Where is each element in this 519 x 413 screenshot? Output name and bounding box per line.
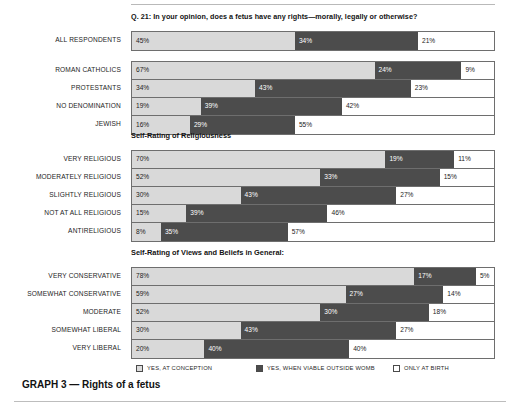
- section-header-views: Self-Rating of Views and Beliefs in Gene…: [131, 248, 284, 257]
- bar-row: 34% 43% 23%: [132, 80, 494, 98]
- bar-group-denomination: 67% 24% 9% 34% 43% 23% 19%: [131, 61, 495, 135]
- segment-at-conception: 67%: [132, 62, 375, 79]
- segment-only-at-birth: 5%: [476, 268, 494, 285]
- segment-value: 43%: [241, 327, 258, 334]
- segment-value: 27%: [396, 192, 413, 199]
- segment-value: 34%: [132, 85, 149, 92]
- segment-only-at-birth: 15%: [440, 169, 494, 186]
- category-label: VERY RELIGIOUS: [0, 150, 126, 168]
- segment-only-at-birth: 42%: [342, 98, 494, 115]
- segment-value: 67%: [132, 67, 149, 74]
- segment-value: 55%: [295, 122, 312, 129]
- segment-at-conception: 78%: [132, 268, 414, 285]
- bar-group-religiousness: 70% 19% 11% 52% 33% 15% 30%: [131, 150, 495, 242]
- segment-when-viable: 43%: [255, 80, 411, 97]
- bar-row: 67% 24% 9%: [132, 62, 494, 80]
- segment-value: 24%: [375, 67, 392, 74]
- segment-value: 70%: [132, 156, 149, 163]
- legend-item-only-at-birth: ONLY AT BIRTH: [393, 361, 449, 375]
- segment-value: 15%: [132, 210, 149, 217]
- segment-only-at-birth: 46%: [327, 205, 494, 222]
- bar-row: 59% 27% 14%: [132, 286, 494, 304]
- bar-row: 19% 39% 42%: [132, 98, 494, 116]
- segment-when-viable: 43%: [241, 187, 397, 204]
- segment-when-viable: 43%: [241, 322, 397, 339]
- segment-value: 30%: [132, 192, 149, 199]
- bar-group-views: 78% 17% 5% 59% 27% 14% 52%: [131, 267, 495, 359]
- category-label: SLIGHTLY RELIGIOUS: [0, 186, 126, 204]
- legend-item-at-conception: YES, AT CONCEPTION: [136, 361, 212, 375]
- legend-label: YES, AT CONCEPTION: [147, 365, 212, 371]
- segment-only-at-birth: 57%: [288, 223, 494, 241]
- legend-item-when-viable: YES, WHEN VIABLE OUTSIDE WOMB: [256, 361, 375, 375]
- segment-value: 52%: [132, 174, 149, 181]
- bar-row: 15% 39% 46%: [132, 205, 494, 223]
- segment-only-at-birth: 21%: [418, 32, 494, 50]
- segment-only-at-birth: 11%: [454, 151, 494, 168]
- category-labels-group-denomination: ROMAN CATHOLICS PROTESTANTS NO DENOMINAT…: [0, 61, 126, 133]
- category-label: NO DENOMINATION: [0, 97, 126, 115]
- segment-at-conception: 30%: [132, 187, 241, 204]
- legend-label: ONLY AT BIRTH: [404, 365, 449, 371]
- segment-value: 16%: [132, 122, 149, 129]
- bar-row: 45% 34% 21%: [132, 32, 494, 50]
- category-label: MODERATE: [0, 303, 126, 321]
- category-labels-group-1: ALL RESPONDENTS: [0, 31, 126, 49]
- segment-value: 40%: [204, 346, 221, 353]
- bar-row: 8% 35% 57%: [132, 223, 494, 241]
- category-label: NOT AT ALL RELIGIOUS: [0, 204, 126, 222]
- segment-value: 52%: [132, 309, 149, 316]
- segment-only-at-birth: 14%: [443, 286, 494, 303]
- segment-value: 46%: [327, 210, 344, 217]
- segment-value: 15%: [440, 174, 457, 181]
- segment-value: 11%: [454, 156, 471, 163]
- segment-value: 43%: [241, 192, 258, 199]
- segment-value: 29%: [190, 122, 207, 129]
- category-label: ANTIRELIGIOUS: [0, 222, 126, 240]
- segment-value: 23%: [411, 85, 428, 92]
- legend-swatch-white-icon: [393, 365, 400, 372]
- segment-when-viable: 39%: [201, 98, 342, 115]
- graph-page: Q. 21: In your opinion, does a fetus hav…: [0, 0, 519, 413]
- segment-only-at-birth: 18%: [429, 304, 494, 321]
- bar-row: 30% 43% 27%: [132, 322, 494, 340]
- category-label: MODERATELY RELIGIOUS: [0, 168, 126, 186]
- segment-value: 45%: [132, 38, 149, 45]
- segment-value: 57%: [288, 229, 305, 236]
- bar-group-overall: 45% 34% 21%: [131, 31, 495, 51]
- legend-swatch-light-icon: [136, 365, 143, 372]
- segment-value: 40%: [349, 346, 366, 353]
- category-label: VERY LIBERAL: [0, 339, 126, 357]
- segment-when-viable: 35%: [161, 223, 288, 241]
- segment-when-viable: 30%: [320, 304, 429, 321]
- top-divider: [131, 4, 495, 5]
- segment-at-conception: 30%: [132, 322, 241, 339]
- bar-row: 70% 19% 11%: [132, 151, 494, 169]
- segment-only-at-birth: 23%: [411, 80, 494, 97]
- segment-value: 43%: [255, 85, 272, 92]
- segment-at-conception: 34%: [132, 80, 255, 97]
- bottom-divider: [14, 401, 506, 402]
- bar-row: 78% 17% 5%: [132, 268, 494, 286]
- segment-at-conception: 52%: [132, 304, 320, 321]
- segment-when-viable: 34%: [295, 32, 418, 50]
- segment-at-conception: 59%: [132, 286, 346, 303]
- category-label: SOMEWHAT CONSERVATIVE: [0, 285, 126, 303]
- category-label: VERY CONSERVATIVE: [0, 267, 126, 285]
- segment-value: 35%: [161, 229, 178, 236]
- segment-at-conception: 8%: [132, 223, 161, 241]
- segment-only-at-birth: 27%: [396, 322, 494, 339]
- segment-value: 19%: [132, 103, 149, 110]
- segment-at-conception: 52%: [132, 169, 320, 186]
- category-label: JEWISH: [0, 115, 126, 133]
- segment-when-viable: 33%: [320, 169, 439, 186]
- category-labels-group-views: VERY CONSERVATIVE SOMEWHAT CONSERVATIVE …: [0, 267, 126, 357]
- bar-row: 52% 30% 18%: [132, 304, 494, 322]
- category-labels-group-religiousness: VERY RELIGIOUS MODERATELY RELIGIOUS SLIG…: [0, 150, 126, 240]
- graph-caption: GRAPH 3 — Rights of a fetus: [22, 379, 160, 390]
- segment-only-at-birth: 9%: [461, 62, 494, 79]
- segment-at-conception: 15%: [132, 205, 186, 222]
- segment-value: 18%: [429, 309, 446, 316]
- segment-at-conception: 20%: [132, 340, 204, 358]
- segment-value: 59%: [132, 291, 149, 298]
